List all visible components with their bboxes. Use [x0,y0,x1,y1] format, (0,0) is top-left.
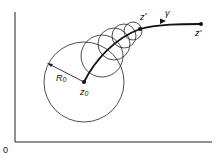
gamma-label: γ [165,8,170,18]
point-zprime [199,22,203,26]
zstar-label: z* [139,12,148,22]
center-label: z0 [79,87,89,97]
radius-label: R0 [56,73,67,83]
circle-chain-diagram: 0 R0 z0 z* γ z' [0,0,216,157]
point-zstar [138,27,142,31]
path-gamma [84,24,201,82]
zprime-label: z' [194,28,202,38]
gamma-arrow-icon [160,19,166,25]
point-z0 [82,80,86,84]
circle-chain [44,22,142,122]
origin-label: 0 [3,145,8,155]
